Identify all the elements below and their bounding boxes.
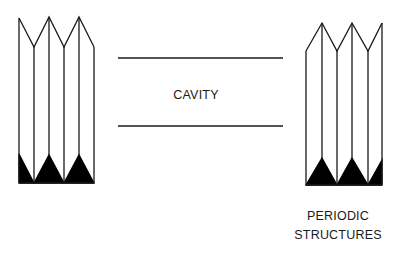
left-structure-fill-1: [19, 154, 34, 183]
left-structure-fill-2: [34, 155, 64, 183]
left-structure-fill-3: [64, 155, 94, 183]
left-structure-zigzag: [19, 17, 94, 47]
right-periodic-structure: [306, 23, 382, 185]
periodic-label-line2: STRUCTURES: [286, 226, 390, 245]
right-structure-fill-2: [337, 158, 368, 185]
right-structure-fill-1: [306, 158, 337, 185]
cavity-label: CAVITY: [158, 89, 234, 102]
right-structure-fill-3: [368, 160, 382, 185]
left-periodic-structure: [19, 17, 94, 183]
periodic-label-line1: PERIODIC: [286, 207, 390, 226]
right-structure-zigzag: [306, 23, 382, 51]
periodic-structures-label: PERIODIC STRUCTURES: [286, 207, 390, 245]
